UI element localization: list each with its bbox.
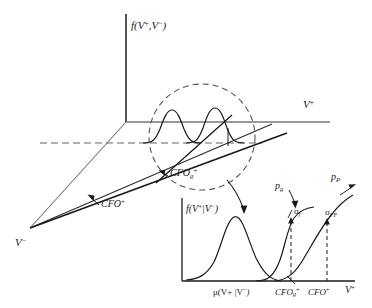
- magnifier-leader-arrow: [227, 180, 247, 214]
- inset-sigma-f-label: σf: [294, 207, 301, 217]
- inset-x-axis-label: V+: [345, 285, 355, 295]
- depth-axis-label: V−: [15, 237, 26, 248]
- axes-3d-group: [30, 14, 330, 228]
- horizontal-axis-label: V+: [303, 99, 314, 110]
- cfo-plus-dashed-arrow: [324, 218, 330, 224]
- pp-pointer-arrow: [340, 184, 356, 195]
- inset-y-axis-label: f(V+|V−): [186, 204, 218, 214]
- inset-plot-group: [182, 184, 356, 284]
- inset-pg-label: pg: [275, 181, 283, 192]
- inset-pp-label: pP: [331, 172, 340, 183]
- cfo-plus-pointer-arrow: [88, 195, 100, 205]
- gaussian-ridges-group: [143, 108, 244, 143]
- inset-gaussian-curve: [186, 217, 281, 281]
- sigma-f-pointer-arrow: [288, 210, 292, 218]
- plane-right-edge: [30, 124, 272, 228]
- cfo-g-annotation: CFOg+: [170, 168, 197, 180]
- inset-xtick-cfo-g: CFOg+: [275, 287, 300, 297]
- depth-axis-line: [30, 122, 126, 228]
- cfo-plus-annotation: CFO+: [101, 199, 125, 209]
- inset-sigmoid-pg-curve: [256, 207, 314, 281]
- gaussian-ridge-2: [186, 108, 244, 143]
- inset-sigma-ff-label: σFF: [325, 208, 337, 218]
- gaussian-ridge-1: [143, 110, 201, 143]
- inset-xtick-cfo-plus: CFO+: [308, 287, 329, 297]
- figure-canvas: [0, 0, 372, 308]
- vertical-axis-label: f(V+,V−): [131, 20, 166, 31]
- inset-xtick-mu: μ(V+ |V−): [213, 287, 249, 297]
